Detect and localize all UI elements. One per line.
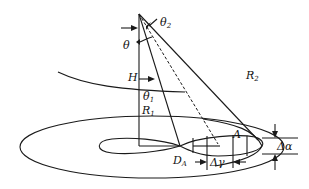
delta-gamma-arrow-left-icon xyxy=(200,159,207,165)
theta-label: θ xyxy=(123,39,130,52)
A-label: A xyxy=(232,128,241,141)
delta-alpha-label: Δα xyxy=(276,140,293,153)
delta-gamma-label: Δγ xyxy=(209,156,225,169)
theta1-ray xyxy=(139,14,180,146)
H-arrow-icon xyxy=(148,76,155,82)
theta-arc-arrow-icon xyxy=(136,39,140,45)
cone-disk-diagram: θ2 θ H θ1 R1 R2 A DA Δγ Δα xyxy=(0,0,309,189)
theta2-label: θ2 xyxy=(160,16,172,30)
R2-label: R2 xyxy=(245,69,259,83)
theta1-label: θ1 xyxy=(143,90,154,104)
R1-label: R1 xyxy=(141,104,155,118)
theta-arrow-icon xyxy=(131,25,138,31)
H-label: H xyxy=(127,71,138,84)
R2-ray xyxy=(139,14,258,140)
delta-gamma-arrow-right-icon xyxy=(233,159,240,165)
annulus-segment-ellipse xyxy=(180,136,263,156)
H-arc xyxy=(58,72,185,92)
theta2-arrow-shaft xyxy=(149,19,157,26)
DA-label: DA xyxy=(172,154,187,168)
